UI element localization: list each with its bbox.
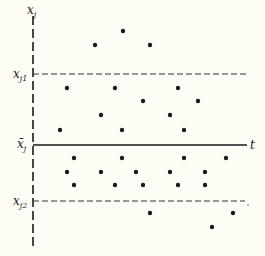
data-point	[176, 183, 180, 187]
data-point	[120, 128, 124, 132]
data-point	[203, 183, 207, 187]
data-point	[231, 211, 235, 215]
time-axis-label: t	[250, 138, 255, 152]
data-point	[99, 113, 103, 117]
data-point	[203, 170, 207, 174]
vertical-axis-label: xj	[27, 3, 37, 19]
data-point	[93, 43, 97, 47]
data-point	[168, 170, 172, 174]
upper-limit-label: xj1	[13, 67, 27, 83]
data-point	[120, 156, 124, 160]
data-point	[168, 113, 172, 117]
data-point	[141, 183, 145, 187]
control-chart: xj xj1 x̄j xj2 t	[0, 0, 265, 256]
data-point	[210, 225, 214, 229]
data-point	[65, 86, 69, 90]
data-point	[182, 156, 186, 160]
data-point	[99, 170, 103, 174]
data-point	[134, 170, 138, 174]
stray-mark	[247, 204, 248, 205]
data-point	[148, 43, 152, 47]
data-point	[72, 183, 76, 187]
data-point	[113, 183, 117, 187]
mean-label: x̄j	[17, 137, 27, 153]
data-point	[58, 128, 62, 132]
data-point	[141, 99, 145, 103]
data-point	[148, 211, 152, 215]
data-point	[121, 29, 125, 33]
data-point	[65, 170, 69, 174]
lower-limit-label: xj2	[13, 194, 27, 210]
data-points	[58, 29, 235, 229]
data-point	[182, 128, 186, 132]
data-point	[176, 86, 180, 90]
data-point	[196, 99, 200, 103]
data-point	[72, 156, 76, 160]
data-point	[113, 86, 117, 90]
data-point	[224, 156, 228, 160]
